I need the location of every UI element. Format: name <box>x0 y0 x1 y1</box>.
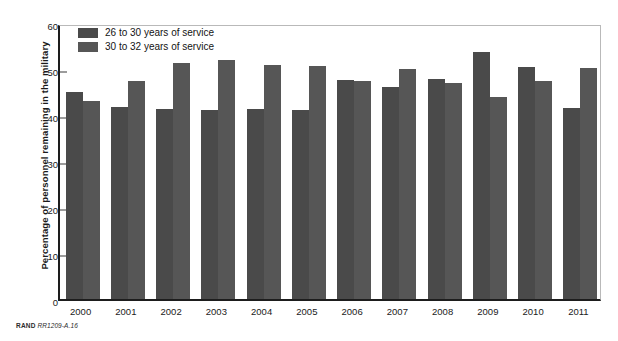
bar-series-container <box>60 26 600 299</box>
legend-item: 26 to 30 years of service <box>78 27 214 38</box>
bar <box>309 66 326 299</box>
bar-group <box>473 26 507 299</box>
bar-group <box>428 26 462 299</box>
source-note: RAND RR1209-A.16 <box>16 322 78 329</box>
bar-group <box>156 26 190 299</box>
y-axis-tick-label: 60 <box>36 21 58 32</box>
bar <box>473 52 490 299</box>
y-axis-tick-label: 20 <box>36 205 58 216</box>
legend-color-swatch <box>78 28 98 38</box>
bar-group <box>111 26 145 299</box>
bar <box>173 63 190 299</box>
bar <box>83 101 100 299</box>
bar <box>445 83 462 299</box>
bar <box>535 81 552 300</box>
bar <box>399 69 416 299</box>
bar <box>128 81 145 299</box>
bar <box>580 68 597 299</box>
legend-label: 26 to 30 years of service <box>105 27 214 38</box>
bar-group <box>292 26 326 299</box>
bar <box>382 87 399 299</box>
bar <box>563 108 580 299</box>
bar <box>111 107 128 299</box>
source-organization: RAND <box>16 322 36 329</box>
bar <box>354 81 371 300</box>
bar <box>247 109 264 299</box>
bar <box>292 110 309 299</box>
y-axis-tick-label: 50 <box>36 67 58 78</box>
chart-figure: Percentage of personnel remaining in the… <box>0 0 618 341</box>
y-axis-tick-label: 30 <box>36 159 58 170</box>
plot-area: 0102030405060 <box>58 25 601 301</box>
bar-group <box>337 26 371 299</box>
chart-legend: 26 to 30 years of service30 to 32 years … <box>78 27 214 52</box>
bar-group <box>518 26 552 299</box>
bar-group <box>382 26 416 299</box>
bar-group <box>563 26 597 299</box>
bar-group <box>66 26 100 299</box>
bar-group <box>247 26 281 299</box>
source-code: RR1209-A.16 <box>37 322 77 329</box>
bar <box>337 80 354 299</box>
y-axis-tick-label: 10 <box>36 251 58 262</box>
bar <box>201 110 218 299</box>
bar <box>156 109 173 299</box>
x-axis-tick-label: 2011 <box>548 306 608 317</box>
bar <box>428 79 445 299</box>
bar <box>218 60 235 299</box>
bar <box>264 65 281 299</box>
bar <box>66 92 83 299</box>
bar <box>518 67 535 299</box>
legend-color-swatch <box>78 42 98 52</box>
legend-label: 30 to 32 years of service <box>105 41 214 52</box>
legend-item: 30 to 32 years of service <box>78 41 214 52</box>
y-axis-tick-label: 40 <box>36 113 58 124</box>
bar <box>490 97 507 299</box>
bar-group <box>201 26 235 299</box>
